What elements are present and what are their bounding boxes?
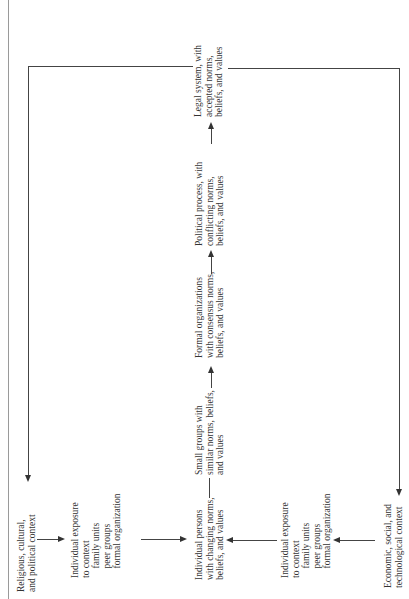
edge-religious-to-exposure xyxy=(37,539,60,540)
arrow-right-icon xyxy=(180,536,187,542)
arrow-left-icon xyxy=(226,537,233,543)
feedback-line-top-left xyxy=(28,66,193,67)
node-legal-system: Legal system, with accepted norms, belie… xyxy=(193,45,225,117)
edge-political-to-legal xyxy=(211,128,212,144)
page-edge-rule xyxy=(8,0,9,599)
node-economic-context: Economic, social, and technological cont… xyxy=(383,504,404,588)
edge-formal-to-political xyxy=(211,256,212,274)
arrow-down-icon xyxy=(25,475,31,482)
arrow-up-icon xyxy=(208,250,214,257)
arrow-up-icon xyxy=(208,122,214,129)
node-formal-organizations: Formal organizations with consensus norm… xyxy=(194,272,226,358)
arrow-left-icon xyxy=(333,537,340,543)
edge-small-to-formal xyxy=(211,372,212,388)
arrow-up-icon xyxy=(208,366,214,373)
node-small-groups: Small groups with similar norms, beliefs… xyxy=(194,390,226,475)
node-exposure-top: Individual exposure to context family un… xyxy=(70,493,123,578)
node-political-process: Political process, with conflicting norm… xyxy=(194,162,226,246)
feedback-line-right-vertical xyxy=(399,68,400,492)
edge-exposure-to-persons xyxy=(141,539,181,540)
arrow-down-icon xyxy=(396,489,402,496)
feedback-line-left-vertical xyxy=(28,66,29,479)
node-individual-persons: Individual persons with changing norms, … xyxy=(194,497,226,580)
edge-persons-to-small-groups xyxy=(209,478,210,498)
arrow-right-icon xyxy=(58,536,65,542)
feedback-line-top-right xyxy=(228,68,400,69)
edge-exposure-bottom-to-persons xyxy=(232,540,277,541)
node-exposure-bottom: Individual exposure to context family un… xyxy=(280,493,333,578)
node-religious-context: Religious, cultural, and political conte… xyxy=(16,514,37,592)
edge-economic-to-exposure xyxy=(339,540,375,541)
